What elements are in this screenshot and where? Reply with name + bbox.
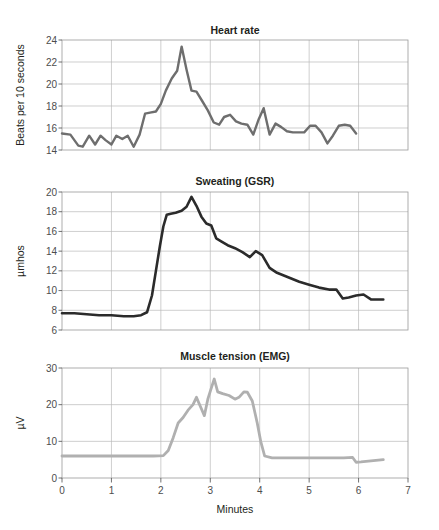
y-tick-label: 30 bbox=[46, 363, 58, 374]
y-tick-label: 20 bbox=[46, 399, 58, 410]
x-axis-tick-labels: 01234567 bbox=[59, 485, 411, 496]
y-tick-label: 20 bbox=[46, 187, 58, 198]
x-tick-label: 1 bbox=[109, 485, 115, 496]
gsr-y-axis-title: µmhos bbox=[14, 245, 26, 277]
y-tick-label: 0 bbox=[51, 473, 57, 484]
y-tick-label: 14 bbox=[46, 246, 58, 257]
biofeedback-figure: Heart rate 141618202224 Beats per 10 sec… bbox=[0, 0, 439, 530]
heart-rate-y-axis-title: Beats per 10 seconds bbox=[14, 44, 26, 146]
y-tick-label: 16 bbox=[46, 123, 58, 134]
x-axis-title: Minutes bbox=[217, 503, 254, 515]
gsr-y-tick-labels: 68101214161820 bbox=[46, 187, 62, 336]
gsr-plot-frame bbox=[62, 192, 408, 330]
emg-title: Muscle tension (EMG) bbox=[180, 350, 290, 362]
y-tick-label: 6 bbox=[51, 325, 57, 336]
y-tick-label: 10 bbox=[46, 285, 58, 296]
y-tick-label: 24 bbox=[46, 35, 58, 46]
y-tick-label: 10 bbox=[46, 436, 58, 447]
y-tick-label: 12 bbox=[46, 265, 58, 276]
panel-gsr: Sweating (GSR) 68101214161820 µmhos bbox=[14, 175, 408, 336]
y-tick-label: 20 bbox=[46, 79, 58, 90]
x-tick-label: 5 bbox=[306, 485, 312, 496]
y-tick-label: 22 bbox=[46, 57, 58, 68]
heart-rate-y-tick-labels: 141618202224 bbox=[46, 35, 62, 156]
x-tick-label: 0 bbox=[59, 485, 65, 496]
x-tick-label: 4 bbox=[257, 485, 263, 496]
gsr-title: Sweating (GSR) bbox=[196, 175, 275, 187]
emg-y-tick-labels: 0102030 bbox=[46, 363, 62, 484]
x-tick-label: 6 bbox=[356, 485, 362, 496]
y-tick-label: 18 bbox=[46, 101, 58, 112]
x-tick-label: 7 bbox=[405, 485, 411, 496]
heart-rate-title: Heart rate bbox=[210, 24, 259, 36]
emg-series-line bbox=[62, 379, 383, 462]
gsr-series-line bbox=[62, 197, 383, 316]
x-tick-label: 3 bbox=[208, 485, 214, 496]
y-tick-label: 16 bbox=[46, 226, 58, 237]
emg-y-axis-title: µV bbox=[14, 416, 26, 429]
x-axis-tick-marks bbox=[62, 478, 408, 483]
x-tick-label: 2 bbox=[158, 485, 164, 496]
panel-emg: Muscle tension (EMG) 0102030 µV 01234567… bbox=[14, 350, 411, 515]
y-tick-label: 14 bbox=[46, 145, 58, 156]
y-tick-label: 18 bbox=[46, 206, 58, 217]
gsr-gridlines bbox=[62, 192, 408, 330]
heart-rate-series-line bbox=[62, 47, 356, 147]
y-tick-label: 8 bbox=[51, 305, 57, 316]
panel-heart-rate: Heart rate 141618202224 Beats per 10 sec… bbox=[14, 24, 408, 156]
